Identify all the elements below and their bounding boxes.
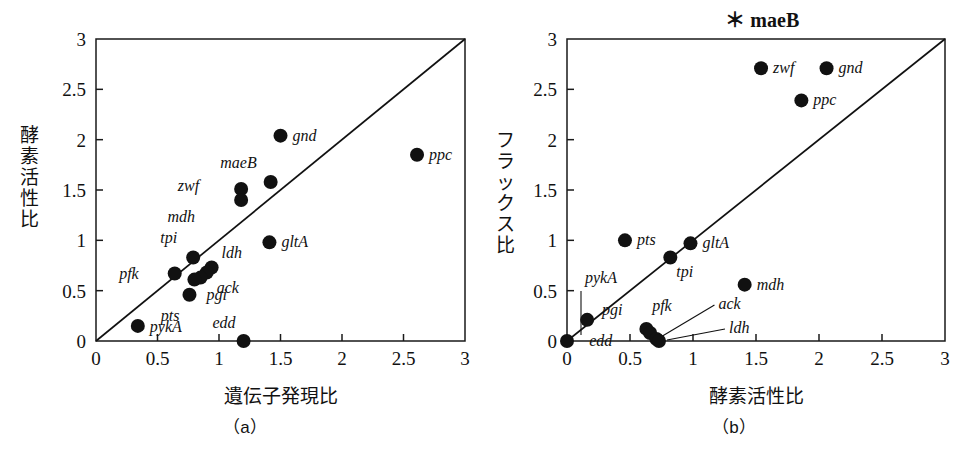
x-axis-tick-label: 2.5 — [392, 348, 416, 369]
x-axis-tick-label: 1.5 — [744, 348, 768, 369]
y-axis-tick-label: 0 — [548, 331, 558, 352]
x-axis-tick-label: 1 — [688, 348, 698, 369]
y-axis-tick-label: 0.5 — [533, 281, 557, 302]
data-point — [683, 236, 697, 250]
data-point-label: ack — [718, 295, 741, 312]
y-axis-title-char: ラ — [490, 151, 520, 172]
data-point-label: edd — [212, 314, 236, 331]
data-point — [794, 93, 808, 107]
y-axis-title-char: ス — [490, 214, 520, 235]
data-point — [237, 334, 251, 348]
x-axis-title: 酵素活性比 — [709, 386, 804, 407]
x-axis-tick-label: 0 — [91, 348, 101, 369]
panel-a-caption: （a） — [145, 413, 345, 438]
data-point — [663, 250, 677, 264]
x-axis-tick-label: 3 — [460, 348, 470, 369]
panel-b-y-axis-title: フラックス比 — [490, 130, 520, 256]
data-point-label: pfk — [651, 297, 672, 315]
y-axis-tick-label: 2.5 — [533, 79, 557, 100]
x-axis-tick-label: 2.5 — [870, 348, 894, 369]
data-point — [754, 61, 768, 75]
y-axis-title-char: 性 — [14, 188, 44, 209]
figure-container: 00.511.522.5300.511.522.53遺伝子発現比gndppcma… — [0, 0, 969, 461]
label-leader-line — [667, 329, 725, 340]
x-axis-tick-label: 1.5 — [269, 348, 293, 369]
data-point-label: gltA — [702, 234, 729, 252]
data-point — [652, 334, 666, 348]
data-point — [186, 250, 200, 264]
y-axis-tick-label: 2.5 — [62, 79, 86, 100]
data-point — [182, 288, 196, 302]
data-point — [410, 148, 424, 162]
x-axis-tick-label: 3 — [940, 348, 950, 369]
y-axis-title-char: 活 — [14, 167, 44, 188]
identity-reference-line — [96, 39, 465, 341]
data-point-label: zwf — [177, 177, 202, 195]
data-point-label: pfk — [118, 265, 139, 283]
y-axis-title-char: フ — [490, 130, 520, 151]
panel-a-y-axis-title: 酵素活性比 — [14, 125, 44, 230]
data-point-label: mdh — [168, 208, 196, 225]
data-point-label: tpi — [160, 229, 177, 247]
data-point — [264, 175, 278, 189]
panel-a: 00.511.522.5300.511.522.53遺伝子発現比gndppcma… — [0, 0, 485, 461]
x-axis-tick-label: 1 — [214, 348, 224, 369]
x-axis-tick-label: 0.5 — [146, 348, 170, 369]
identity-reference-line — [567, 39, 945, 341]
data-point-label: gnd — [293, 127, 318, 145]
data-point-label: tpi — [676, 263, 693, 281]
y-axis-title-char: 酵 — [14, 125, 44, 146]
panel-b-caption: （b） — [634, 413, 834, 438]
data-point-label: ldh — [729, 319, 749, 336]
data-point-label: gnd — [839, 59, 864, 77]
data-point-label: mdh — [757, 276, 785, 293]
scatter-plot-a: 00.511.522.5300.511.522.53遺伝子発現比gndppcma… — [0, 0, 485, 400]
data-point-label: maeB — [220, 154, 257, 171]
y-axis-tick-label: 3 — [548, 29, 558, 50]
y-axis-tick-label: 1 — [548, 230, 558, 251]
y-axis-title-char: 比 — [490, 235, 520, 256]
data-point-label: pgi — [206, 286, 227, 304]
x-axis-tick-label: 2 — [337, 348, 347, 369]
x-axis-title: 遺伝子発現比 — [224, 386, 338, 407]
x-axis-tick-label: 0 — [562, 348, 572, 369]
y-axis-tick-label: 3 — [77, 29, 87, 50]
y-axis-tick-label: 0 — [77, 331, 87, 352]
data-point-label: pgi — [601, 301, 622, 319]
data-point — [168, 267, 182, 281]
y-axis-tick-label: 2 — [548, 130, 558, 151]
data-point-label: pts — [636, 231, 656, 249]
data-point — [187, 273, 201, 287]
data-point — [580, 313, 594, 327]
data-point — [234, 193, 248, 207]
x-axis-tick-label: 0.5 — [618, 348, 642, 369]
data-point — [738, 278, 752, 292]
data-point-label: ppc — [428, 146, 452, 164]
y-axis-tick-label: 2 — [77, 130, 87, 151]
data-point — [262, 235, 276, 249]
data-point — [274, 129, 288, 143]
data-point-label: zwf — [772, 59, 797, 77]
y-axis-title-char: ッ — [490, 172, 520, 193]
maeb-annotation: ＊ maeB — [725, 9, 799, 31]
data-point — [820, 61, 834, 75]
data-point-label: edd — [589, 332, 613, 349]
data-point — [131, 319, 145, 333]
y-axis-tick-label: 1 — [77, 230, 87, 251]
y-axis-tick-label: 0.5 — [62, 281, 86, 302]
x-axis-tick-label: 2 — [814, 348, 824, 369]
data-point-label: ppc — [812, 91, 836, 109]
y-axis-tick-label: 1.5 — [62, 180, 86, 201]
data-point-label: gltA — [281, 233, 308, 251]
data-point-label: ldh — [222, 244, 242, 261]
y-axis-title-char: 比 — [14, 209, 44, 230]
data-point — [560, 334, 574, 348]
data-point — [618, 233, 632, 247]
y-axis-title-char: ク — [490, 193, 520, 214]
panel-b: 00.511.522.5300.511.522.53酵素活性比＊ maeBzwf… — [484, 0, 969, 461]
y-axis-tick-label: 1.5 — [533, 180, 557, 201]
data-point-label: pykA — [149, 318, 182, 336]
y-axis-title-char: 素 — [14, 146, 44, 167]
scatter-plot-b: 00.511.522.5300.511.522.53酵素活性比＊ maeBzwf… — [484, 0, 969, 400]
data-point-label: pykA — [584, 269, 617, 287]
